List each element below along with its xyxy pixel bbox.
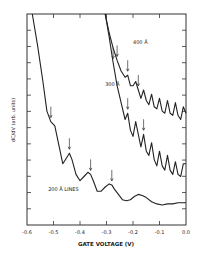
curve-labels: 200 Å LINES300 Å400 Å [48, 39, 148, 193]
curve-label: 200 Å LINES [48, 186, 78, 192]
x-tick-labels: -0.6-0.5-0.4-0.3-0.2-0.10.0 [22, 229, 190, 235]
curve-label: 300 Å [105, 81, 120, 87]
x-tick-label: -0.4 [75, 229, 85, 235]
x-tick-label: -0.3 [102, 229, 112, 235]
y-axis-label: dC/dV (arb. units) [10, 98, 16, 142]
dcdv-chart: -0.6-0.5-0.4-0.3-0.2-0.10.0 200 Å LINES3… [0, 0, 198, 257]
data-curves [32, 14, 186, 205]
x-tick-label: -0.2 [128, 229, 138, 235]
x-axis-label: GATE VOLTAGE (V) [78, 241, 135, 247]
x-tick-label: -0.6 [22, 229, 32, 235]
x-tick-label: 0.0 [182, 229, 190, 235]
curve [105, 14, 186, 120]
curve [32, 14, 186, 205]
curve-label: 400 Å [133, 39, 148, 45]
arrow-markers [50, 45, 145, 180]
axis-ticks [27, 14, 186, 225]
x-tick-label: -0.5 [49, 229, 59, 235]
x-tick-label: -0.1 [155, 229, 165, 235]
plot-frame [27, 14, 186, 225]
